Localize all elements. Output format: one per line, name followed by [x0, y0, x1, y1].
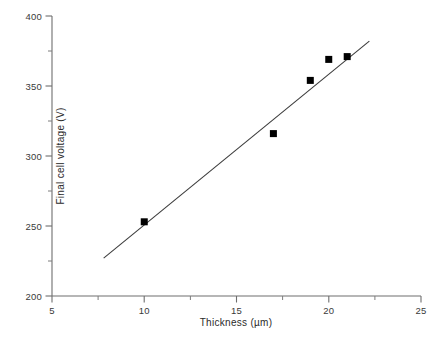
x-tick-label-5: 5	[49, 305, 54, 316]
data-point	[325, 56, 332, 63]
axis-spines	[52, 16, 421, 296]
data-point-markers	[141, 53, 351, 225]
x-tick-label-20: 20	[323, 305, 334, 316]
y-tick-label-200: 200	[10, 291, 42, 302]
y-tick-label-300: 300	[10, 151, 42, 162]
y-major-ticks	[46, 16, 53, 296]
data-point	[270, 130, 277, 137]
y-tick-label-400: 400	[10, 11, 42, 22]
data-point	[141, 218, 148, 225]
y-axis-title: Final cell voltage (V)	[55, 107, 66, 204]
x-major-ticks	[52, 296, 421, 303]
x-tick-label-10: 10	[139, 305, 150, 316]
x-tick-label-15: 15	[231, 305, 242, 316]
x-tick-label-25: 25	[416, 305, 427, 316]
x-axis-title: Thickness (µm)	[200, 317, 273, 328]
data-point	[344, 53, 351, 60]
y-tick-label-350: 350	[10, 81, 42, 92]
trend-line	[104, 41, 370, 258]
data-point	[307, 77, 314, 84]
chart-figure: 400 350 300 250 200 5 10 15 20 25 Thickn…	[0, 0, 437, 337]
y-tick-label-250: 250	[10, 221, 42, 232]
